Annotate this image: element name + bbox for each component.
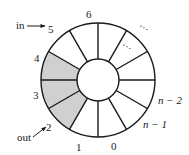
slot-label: 0 — [111, 140, 117, 152]
slot-divider — [109, 98, 127, 129]
ellipsis-mark: ⋯ — [137, 20, 152, 35]
slot-label: 5 — [48, 23, 54, 35]
slot-label: 1 — [76, 141, 82, 153]
slot-label: 3 — [33, 89, 39, 101]
out-arrow-icon — [33, 127, 46, 137]
slot-label: 2 — [46, 121, 52, 133]
slot-label: 4 — [34, 52, 40, 64]
slot-divider — [116, 52, 147, 70]
circular-buffer-diagram: 6543210n − 1n − 2 ⋯⋯ in out — [0, 0, 189, 155]
inner-ring — [77, 59, 119, 101]
slot-label: n − 2 — [158, 94, 182, 106]
slot-label: 6 — [86, 8, 92, 20]
slot-divider — [116, 91, 147, 109]
out-label: out — [17, 131, 31, 143]
slot-label: n − 1 — [143, 118, 167, 130]
ellipsis-mark: ⋯ — [120, 39, 135, 54]
in-label: in — [16, 19, 25, 31]
out-pointer: out — [17, 127, 46, 143]
in-pointer: in — [16, 19, 45, 31]
slot-divider — [70, 31, 88, 62]
